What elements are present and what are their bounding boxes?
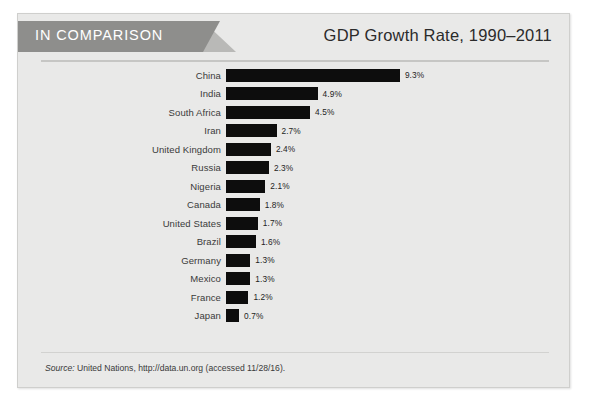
bar-row: Russia2.3% xyxy=(18,159,571,178)
bar-track: 1.8% xyxy=(226,196,571,215)
bar-category-label: United States xyxy=(18,218,226,229)
bar-category-label: Iran xyxy=(18,125,226,136)
bar xyxy=(226,291,248,304)
bar-row: South Africa4.5% xyxy=(18,103,571,122)
bar xyxy=(226,161,269,174)
bar-track: 0.7% xyxy=(226,307,571,326)
bar-track: 2.1% xyxy=(226,177,571,196)
bar-value-label: 1.6% xyxy=(261,237,280,247)
bar-row: Japan0.7% xyxy=(18,307,571,326)
source-text: United Nations, http://data.un.org (acce… xyxy=(75,363,286,373)
bar xyxy=(226,217,258,230)
bar-row: Nigeria2.1% xyxy=(18,177,571,196)
bar-value-label: 1.3% xyxy=(255,255,274,265)
chart-title: GDP Growth Rate, 1990–2011 xyxy=(324,26,552,45)
bar-category-label: India xyxy=(18,88,226,99)
bar-row: China9.3% xyxy=(18,66,571,85)
bar-value-label: 9.3% xyxy=(405,70,424,80)
banner-wedge-dark xyxy=(203,21,220,52)
bar-track: 1.3% xyxy=(226,270,571,289)
bar-category-label: Japan xyxy=(18,310,226,321)
bar-category-label: Germany xyxy=(18,255,226,266)
bar-category-label: United Kingdom xyxy=(18,144,226,155)
bar-row: United Kingdom2.4% xyxy=(18,140,571,159)
bar-track: 2.7% xyxy=(226,122,571,141)
bar xyxy=(226,309,239,322)
bar xyxy=(226,235,256,248)
bar-category-label: France xyxy=(18,292,226,303)
bar xyxy=(226,272,250,285)
bar-row: United States1.7% xyxy=(18,214,571,233)
bar-value-label: 4.5% xyxy=(315,107,334,117)
bar-row: Mexico1.3% xyxy=(18,270,571,289)
bar-value-label: 2.3% xyxy=(274,163,293,173)
bar-row: Canada1.8% xyxy=(18,196,571,215)
header-divider xyxy=(41,60,549,62)
bar-track: 1.7% xyxy=(226,214,571,233)
bar-value-label: 2.1% xyxy=(270,181,289,191)
screenshot-root: IN COMPARISON GDP Growth Rate, 1990–2011… xyxy=(0,0,589,406)
bar-track: 4.9% xyxy=(226,85,571,104)
bar-category-label: Russia xyxy=(18,162,226,173)
bar xyxy=(226,87,318,100)
bar-value-label: 1.8% xyxy=(265,200,284,210)
bar-category-label: South Africa xyxy=(18,107,226,118)
bar xyxy=(226,180,265,193)
bar xyxy=(226,69,400,82)
bar-track: 9.3% xyxy=(226,66,571,85)
bar-category-label: Nigeria xyxy=(18,181,226,192)
bar xyxy=(226,106,310,119)
section-banner: IN COMPARISON xyxy=(18,21,228,52)
bar xyxy=(226,143,271,156)
bar-track: 1.6% xyxy=(226,233,571,252)
bar-value-label: 2.4% xyxy=(276,144,295,154)
bar-category-label: Mexico xyxy=(18,273,226,284)
bar-value-label: 4.9% xyxy=(323,89,342,99)
bar-track: 2.4% xyxy=(226,140,571,159)
source-citation: Source: United Nations, http://data.un.o… xyxy=(45,363,285,373)
bar-track: 1.3% xyxy=(226,251,571,270)
bar-row: Iran2.7% xyxy=(18,122,571,141)
source-label: Source: xyxy=(45,363,75,373)
footer-divider xyxy=(41,352,549,353)
bar-value-label: 1.7% xyxy=(263,218,282,228)
bar-chart: China9.3%India4.9%South Africa4.5%Iran2.… xyxy=(18,66,571,325)
bar-value-label: 1.3% xyxy=(255,274,274,284)
bar xyxy=(226,254,250,267)
infographic-panel: IN COMPARISON GDP Growth Rate, 1990–2011… xyxy=(17,13,570,388)
bar-value-label: 1.2% xyxy=(253,292,272,302)
bar-row: Brazil1.6% xyxy=(18,233,571,252)
bar-track: 1.2% xyxy=(226,288,571,307)
bar-category-label: Canada xyxy=(18,199,226,210)
bar-track: 2.3% xyxy=(226,159,571,178)
banner-label: IN COMPARISON xyxy=(35,27,163,43)
bar-value-label: 0.7% xyxy=(244,311,263,321)
bar-category-label: China xyxy=(18,70,226,81)
bar xyxy=(226,124,277,137)
bar-row: Germany1.3% xyxy=(18,251,571,270)
bar-row: France1.2% xyxy=(18,288,571,307)
bar xyxy=(226,198,260,211)
bar-category-label: Brazil xyxy=(18,236,226,247)
bar-track: 4.5% xyxy=(226,103,571,122)
bar-value-label: 2.7% xyxy=(282,126,301,136)
bar-row: India4.9% xyxy=(18,85,571,104)
